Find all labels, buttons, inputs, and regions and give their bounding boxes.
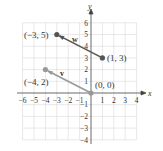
- y-tick: −2: [80, 112, 88, 121]
- label-w-tip: (−3, 5): [24, 30, 49, 40]
- x-tick: −3: [53, 96, 61, 105]
- x-tick: −4: [41, 96, 49, 105]
- y-tick: 6: [84, 19, 88, 28]
- y-tick: −4: [80, 136, 88, 145]
- x-axis-label: x: [147, 89, 152, 98]
- x-tick: 2: [112, 96, 116, 105]
- x-tick: −5: [30, 96, 38, 105]
- label-v-tip: (−4, 2): [24, 77, 49, 87]
- vector-plot: x y −6 −5 −4 −3 −2 −1 1 2 3 4 6 5 4 3 2 …: [0, 0, 163, 151]
- x-tick: −6: [19, 96, 27, 105]
- point-w-tail: [100, 55, 105, 60]
- x-axis-arrow-icon: [141, 91, 146, 95]
- y-axis-label: y: [87, 2, 92, 11]
- label-w-tail: (1, 3): [107, 53, 127, 63]
- x-tick-labels: −6 −5 −4 −3 −2 −1 1 2 3 4: [19, 96, 139, 105]
- y-tick: 2: [84, 65, 88, 74]
- y-tick: 1: [84, 77, 88, 86]
- x-tick: 3: [123, 96, 127, 105]
- y-tick: −1: [80, 100, 88, 109]
- label-vector-w: w: [72, 35, 78, 44]
- x-tick: 4: [135, 96, 139, 105]
- point-v-tip: [43, 67, 48, 72]
- y-tick: 5: [84, 30, 88, 39]
- x-tick: 1: [101, 96, 105, 105]
- y-tick: −3: [80, 124, 88, 133]
- y-tick: 3: [84, 54, 88, 63]
- label-v-tail: (0, 0): [95, 80, 115, 90]
- x-tick: −2: [64, 96, 72, 105]
- point-w-tip: [54, 32, 59, 37]
- label-vector-v: v: [60, 69, 64, 78]
- point-v-tail: [88, 90, 93, 95]
